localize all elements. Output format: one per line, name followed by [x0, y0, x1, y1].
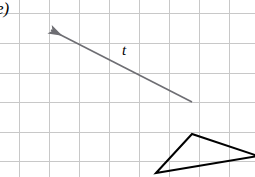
figure-canvas: e) t: [0, 0, 255, 177]
vector-label-t: t: [122, 43, 126, 58]
grid-horizontal-lines: [0, 14, 255, 162]
vector-arrow-t: [51, 30, 192, 102]
part-label: e): [0, 0, 9, 17]
geometry-diagram: [0, 0, 255, 177]
grid-lines: [0, 0, 255, 177]
triangle-outline: [156, 134, 255, 173]
grid-vertical-lines: [20, 0, 230, 177]
